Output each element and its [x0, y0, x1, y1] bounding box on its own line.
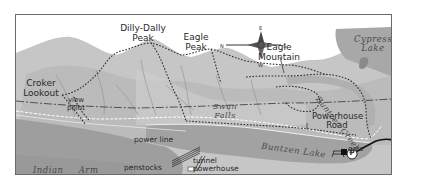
power-line-label: power line: [134, 136, 173, 144]
tunnel-line2: powerhouse: [193, 165, 233, 173]
tunnel-powerhouse-label: tunnel powerhouse: [193, 157, 233, 173]
compass-west-label: W: [258, 61, 263, 70]
compass-east-label: E: [259, 24, 262, 33]
croker-lookout-label: Croker Lookout: [20, 78, 62, 98]
swan-falls-line1: Swan: [211, 102, 239, 111]
croker-line2: Lookout: [20, 88, 62, 98]
croker-line1: Croker: [20, 78, 62, 88]
swan-falls-line2: Falls: [211, 111, 239, 120]
eagle-mountain-line1: Eagle: [254, 42, 304, 52]
eagle-peak-line1: Eagle: [176, 32, 216, 42]
compass-north-label: N: [220, 42, 224, 51]
eagle-mountain-line2: Mountain: [254, 52, 304, 62]
swan-falls-label: Swan Falls: [211, 102, 239, 120]
indian-arm-label: Indian Arm: [33, 166, 99, 175]
viewpoint-label: view point: [64, 97, 88, 112]
dilly-dally-line1: Dilly-Dally: [113, 23, 173, 33]
building-icon: [341, 149, 347, 155]
penstocks-label: penstocks: [124, 164, 162, 172]
map-frame: N E S W Dilly-Dally Peak Eagle Peak Eagl…: [15, 14, 392, 175]
parking-label: P: [348, 149, 356, 158]
dilly-dally-line2: Peak: [113, 33, 173, 43]
dilly-dally-peak-label: Dilly-Dally Peak: [113, 23, 173, 43]
viewpoint-line2: point: [64, 105, 88, 113]
eagle-peak-line2: Peak: [176, 42, 216, 52]
cypress-lake-label: Cypress Lake: [353, 35, 392, 53]
eagle-peak-label: Eagle Peak: [176, 32, 216, 52]
eagle-mountain-label: Eagle Mountain: [254, 42, 304, 62]
cypress-lake-line2: Lake: [353, 44, 392, 53]
